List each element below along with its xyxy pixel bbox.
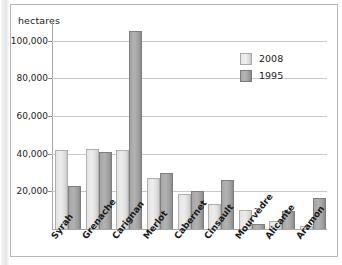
y-tick-mark (48, 41, 52, 42)
y-axis-line (52, 22, 53, 230)
legend-label-2008: 2008 (259, 53, 283, 64)
bar-chart-figure: hectares 2008 1995 20,00040,00060,00080,… (0, 0, 342, 265)
y-tick-label: 60,000 (17, 111, 49, 121)
y-tick-mark (48, 116, 52, 117)
legend-item-1995[interactable]: 1995 (240, 67, 320, 84)
y-tick-mark (48, 191, 52, 192)
legend-swatch-icon-1995 (240, 70, 252, 82)
legend-item-2008[interactable]: 2008 (240, 50, 320, 67)
y-tick-label: 40,000 (17, 149, 49, 159)
bar-group (55, 22, 81, 229)
chart-legend: 2008 1995 (240, 50, 320, 84)
y-tick-mark (48, 154, 52, 155)
bar-1995-carignan[interactable] (129, 31, 142, 229)
y-tick-label: 80,000 (17, 73, 49, 83)
y-tick-mark (48, 78, 52, 79)
y-tick-label: 100,000 (11, 36, 48, 46)
bar-group (208, 22, 234, 229)
legend-swatch-icon-2008 (240, 53, 252, 65)
page-edge-strip (0, 0, 9, 265)
bar-group (116, 22, 142, 229)
y-tick-label: 20,000 (17, 186, 49, 196)
bar-group (147, 22, 173, 229)
legend-label-1995: 1995 (259, 70, 283, 81)
bar-1995-mourvèdre[interactable] (252, 224, 265, 229)
